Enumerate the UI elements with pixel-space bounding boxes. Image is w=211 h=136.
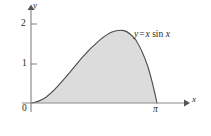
equation-equals: = — [138, 29, 145, 39]
origin-tick-label: 0 — [22, 104, 27, 114]
x-axis-arrowhead — [184, 100, 190, 107]
y-tick-label-2: 2 — [21, 19, 26, 29]
equation-x1: x — [146, 29, 150, 39]
x-tick-label-pi: π — [153, 105, 158, 115]
shaded-area-under-curve — [31, 30, 157, 103]
equation-x2: x — [166, 29, 170, 39]
x-axis-label: x — [192, 95, 196, 104]
y-tick-label-1: 1 — [22, 59, 27, 69]
figure-container: y x 2 1 0 π y=x sin x — [0, 0, 211, 136]
plot-canvas — [0, 0, 211, 136]
curve-equation-label: y=x sin x — [134, 30, 170, 40]
equation-sin: sin — [152, 29, 163, 39]
y-axis-label: y — [33, 1, 37, 10]
